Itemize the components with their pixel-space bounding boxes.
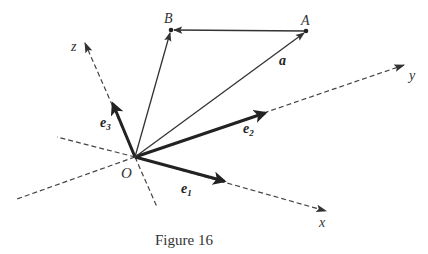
y-axis-label: y [407,68,416,83]
vector-a-OA [135,33,304,157]
vector-OB [135,33,170,157]
e1-vector [135,157,224,181]
point-A-dot [304,29,309,34]
z-axis-label: z [70,39,77,54]
origin-label: O [121,165,132,181]
vector-diagram: B A a x y z O e1 e2 e3 Figure 16 [0,0,428,254]
point-B-label: B [164,11,173,26]
vector-a-label: a [279,53,286,68]
point-B-dot [169,28,174,33]
point-A-label: A [300,13,310,28]
x-axis-label: x [318,215,326,230]
vector-AB [174,30,306,31]
figure-caption: Figure 16 [155,232,213,248]
e3-label: e3 [100,115,111,132]
e1-label: e1 [181,181,192,198]
x-axis [57,137,326,211]
e3-vector [113,104,135,157]
e2-label: e2 [243,121,254,138]
